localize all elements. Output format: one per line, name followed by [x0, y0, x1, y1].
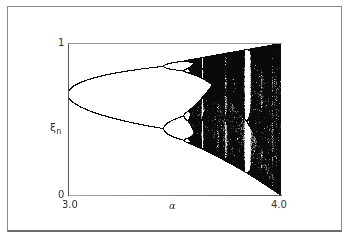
x-axis-label: α	[169, 200, 176, 211]
x-tick-3: 3.0	[62, 200, 78, 210]
x-tick-4: 4.0	[271, 200, 287, 210]
y-tick-1: 1	[58, 38, 64, 48]
bifurcation-plot	[68, 43, 282, 196]
y-axis-label-sub: n	[56, 127, 61, 136]
y-axis-label: ξn	[50, 121, 61, 136]
